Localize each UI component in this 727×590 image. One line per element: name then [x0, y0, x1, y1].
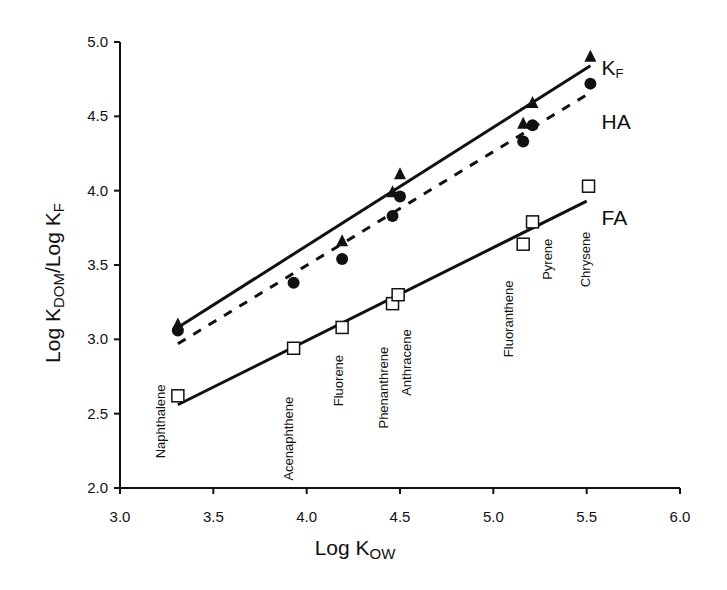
circle-marker: [517, 136, 529, 148]
y-tick-label: 2.0: [87, 479, 108, 496]
y-tick-label: 3.5: [87, 256, 108, 273]
circle-marker: [387, 210, 399, 222]
square-marker: [517, 238, 529, 250]
x-tick-label: 6.0: [670, 508, 691, 525]
series-label-k: KF: [602, 56, 624, 81]
x-tick-label: 5.5: [576, 508, 597, 525]
compound-label: Phenanthrene: [376, 347, 391, 429]
x-axis-title: Log KOW: [315, 536, 397, 562]
square-marker: [288, 342, 300, 354]
series-label-ha: HA: [602, 110, 631, 133]
x-tick-label: 3.5: [203, 508, 224, 525]
compound-label: Fluorene: [331, 355, 346, 406]
circle-marker: [394, 191, 406, 203]
compound-label: Anthracene: [399, 329, 414, 396]
circle-marker: [584, 78, 596, 90]
x-tick-label: 4.5: [390, 508, 411, 525]
square-marker: [336, 321, 348, 333]
triangle-marker: [394, 167, 406, 179]
y-tick-label: 3.0: [87, 330, 108, 347]
square-marker: [527, 216, 539, 228]
circle-marker: [527, 119, 539, 131]
x-tick-label: 4.0: [296, 508, 317, 525]
y-tick-label: 4.0: [87, 182, 108, 199]
compound-label: Chrysene: [578, 232, 593, 288]
compound-label: Acenaphthene: [281, 397, 296, 481]
compound-labels: NaphthaleneAcenaphtheneFluorenePhenanthr…: [153, 232, 594, 481]
y-tick-label: 5.0: [87, 33, 108, 50]
circle-marker: [336, 253, 348, 265]
compound-label: Naphthalene: [153, 385, 168, 459]
axes: 3.03.54.04.55.05.56.02.02.53.03.54.04.55…: [87, 33, 690, 525]
series-label-fa: FA: [602, 206, 628, 229]
triangle-marker: [336, 234, 348, 246]
circle-marker: [288, 277, 300, 289]
y-tick-label: 2.5: [87, 405, 108, 422]
compound-label: Pyrene: [540, 239, 555, 280]
x-tick-label: 5.0: [483, 508, 504, 525]
square-marker: [583, 180, 595, 192]
square-marker: [172, 390, 184, 402]
chart: 3.03.54.04.55.05.56.02.02.53.03.54.04.55…: [0, 0, 727, 590]
compound-label: Fluoranthene: [501, 281, 516, 358]
y-axis-title: Log KDOM/Log KF: [41, 203, 67, 363]
y-tick-label: 4.5: [87, 107, 108, 124]
circle-marker: [172, 324, 184, 336]
triangle-marker: [527, 96, 539, 108]
triangle-marker: [584, 50, 596, 62]
series-labels: KFHAFA: [602, 56, 631, 229]
x-tick-label: 3.0: [110, 508, 131, 525]
square-marker: [392, 289, 404, 301]
